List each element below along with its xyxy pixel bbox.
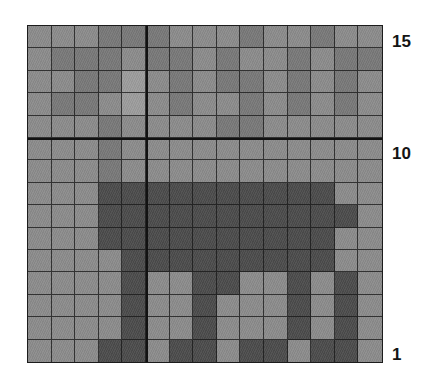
pixelated-image-figure: 15 10 1: [0, 0, 423, 382]
pixel-cell: [170, 295, 194, 317]
pixel-cell: [288, 340, 312, 362]
pixel-cell: [311, 116, 335, 138]
pixel-cell: [217, 116, 241, 138]
pixel-cell: [52, 160, 76, 182]
pixel-cell: [217, 183, 241, 205]
pixel-cell: [28, 340, 52, 362]
pixel-cell: [264, 26, 288, 48]
pixel-cell: [193, 183, 217, 205]
pixel-cell: [335, 317, 359, 339]
pixel-cell: [28, 295, 52, 317]
pixel-cell: [288, 295, 312, 317]
pixel-cell: [217, 317, 241, 339]
pixel-cell: [193, 93, 217, 115]
pixel-cell: [217, 160, 241, 182]
pixel-cell: [99, 340, 123, 362]
pixel-cell: [146, 250, 170, 272]
pixel-cell: [170, 26, 194, 48]
pixel-cell: [240, 183, 264, 205]
pixel-cell: [170, 116, 194, 138]
pixel-cell: [28, 93, 52, 115]
pixel-cell: [75, 116, 99, 138]
pixel-cell: [122, 340, 146, 362]
pixel-cell: [217, 228, 241, 250]
pixel-cell: [288, 93, 312, 115]
pixel-cell: [75, 71, 99, 93]
y-axis-tick-1: 1: [392, 346, 401, 363]
pixel-cell: [240, 138, 264, 160]
pixel-cell: [193, 272, 217, 294]
pixel-cell: [146, 317, 170, 339]
pixel-cell: [264, 317, 288, 339]
pixel-cell: [240, 205, 264, 227]
pixel-cell: [217, 295, 241, 317]
pixel-cell: [28, 71, 52, 93]
pixel-cell: [288, 48, 312, 70]
pixel-cell: [264, 48, 288, 70]
pixel-cell: [240, 250, 264, 272]
pixel-cell: [311, 71, 335, 93]
pixel-cell: [240, 26, 264, 48]
pixel-cell: [146, 116, 170, 138]
pixel-cell: [288, 71, 312, 93]
pixel-cell: [170, 272, 194, 294]
pixel-cell: [28, 272, 52, 294]
pixel-cell: [240, 71, 264, 93]
pixel-cell: [335, 205, 359, 227]
pixel-cell: [311, 160, 335, 182]
pixel-cell: [28, 48, 52, 70]
pixel-cell: [75, 160, 99, 182]
pixel-cell: [240, 228, 264, 250]
pixel-cell: [170, 317, 194, 339]
pixel-cell: [28, 228, 52, 250]
pixel-cell: [240, 160, 264, 182]
pixel-cell: [193, 26, 217, 48]
pixel-cell: [170, 160, 194, 182]
pixel-cell: [122, 26, 146, 48]
pixel-cell: [240, 93, 264, 115]
pixel-cell: [193, 116, 217, 138]
pixel-cell: [264, 340, 288, 362]
pixel-cell: [99, 228, 123, 250]
pixel-cell: [335, 250, 359, 272]
pixel-cell: [335, 26, 359, 48]
pixel-cell: [217, 71, 241, 93]
pixel-cell: [99, 205, 123, 227]
pixel-cell: [335, 93, 359, 115]
pixel-cell: [358, 48, 382, 70]
pixel-cell: [288, 272, 312, 294]
pixel-cell: [52, 116, 76, 138]
pixel-cell: [288, 26, 312, 48]
pixel-cell: [28, 250, 52, 272]
pixel-cell: [75, 340, 99, 362]
pixel-cell: [217, 138, 241, 160]
pixel-cell: [52, 340, 76, 362]
pixel-cell: [358, 183, 382, 205]
pixel-cell: [122, 160, 146, 182]
pixel-grid: [28, 26, 382, 362]
pixel-cell: [28, 138, 52, 160]
pixel-cell: [311, 48, 335, 70]
pixel-cell: [146, 205, 170, 227]
pixel-cell: [99, 183, 123, 205]
pixel-cell: [358, 317, 382, 339]
pixel-cell: [99, 160, 123, 182]
pixel-cell: [122, 250, 146, 272]
pixel-cell: [146, 71, 170, 93]
pixel-cell: [335, 48, 359, 70]
pixel-cell: [52, 183, 76, 205]
pixel-cell: [146, 138, 170, 160]
pixel-cell: [52, 228, 76, 250]
pixel-cell: [122, 272, 146, 294]
heatmap-plot-area: [27, 25, 383, 363]
pixel-cell: [288, 228, 312, 250]
pixel-cell: [75, 26, 99, 48]
pixel-cell: [288, 138, 312, 160]
pixel-cell: [335, 138, 359, 160]
pixel-cell: [288, 116, 312, 138]
pixel-cell: [146, 228, 170, 250]
pixel-cell: [52, 48, 76, 70]
pixel-cell: [193, 71, 217, 93]
pixel-cell: [75, 138, 99, 160]
pixel-cell: [75, 228, 99, 250]
